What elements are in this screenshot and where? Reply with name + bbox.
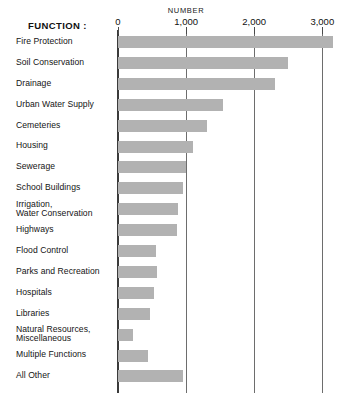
bar <box>118 308 150 320</box>
bar <box>118 182 183 194</box>
category-label-line: Water Conservation <box>16 209 114 218</box>
axis-tickmark <box>254 27 255 34</box>
category-label: Drainage <box>16 79 114 89</box>
bar <box>118 120 207 132</box>
category-label: Irrigation,Water Conservation <box>16 200 114 219</box>
bar <box>118 36 333 48</box>
category-label-line: Sewerage <box>16 162 114 172</box>
category-label-line: Soil Conservation <box>16 58 114 68</box>
category-label-line: Drainage <box>16 79 114 89</box>
category-label: All Other <box>16 371 114 381</box>
axis-tick-label: 3,000 <box>310 16 334 27</box>
axis-tickmark <box>186 27 187 34</box>
category-label: Parks and Recreation <box>16 267 114 277</box>
category-label-line: Multiple Functions <box>16 350 114 360</box>
category-label-line: Highways <box>16 225 114 235</box>
bar <box>118 370 183 382</box>
bar <box>118 161 186 173</box>
axis-tickmark <box>118 27 119 34</box>
category-label-line: Hospitals <box>16 288 114 298</box>
axis-tick-label: 2,000 <box>242 16 266 27</box>
bar <box>118 287 154 299</box>
category-label-line: School Buildings <box>16 183 114 193</box>
axis-tick-label: 0 <box>115 16 120 27</box>
gridline-3000 <box>322 30 323 393</box>
category-label: Flood Control <box>16 246 114 256</box>
category-label-line: Miscellaneous <box>16 334 114 343</box>
category-label-line: Housing <box>16 141 114 151</box>
bar <box>118 350 148 362</box>
category-label-line: Urban Water Supply <box>16 100 114 110</box>
category-label: Multiple Functions <box>16 350 114 360</box>
category-label: Sewerage <box>16 162 114 172</box>
bar <box>118 141 193 153</box>
category-label-line: Cemeteries <box>16 121 114 131</box>
category-label: School Buildings <box>16 183 114 193</box>
category-label: Housing <box>16 141 114 151</box>
category-label-line: Parks and Recreation <box>16 267 114 277</box>
bar <box>118 245 156 257</box>
category-label-line: All Other <box>16 371 114 381</box>
bar <box>118 224 177 236</box>
category-label: Highways <box>16 225 114 235</box>
bar <box>118 78 275 90</box>
bar <box>118 57 288 69</box>
category-label-line: Libraries <box>16 309 114 319</box>
axis-tick-label: 1,000 <box>174 16 198 27</box>
category-label: Hospitals <box>16 288 114 298</box>
bar <box>118 266 157 278</box>
category-label: Fire Protection <box>16 37 114 47</box>
category-label: Libraries <box>16 309 114 319</box>
category-label-line: Fire Protection <box>16 37 114 47</box>
bar <box>118 99 223 111</box>
category-label: Natural Resources,Miscellaneous <box>16 325 114 344</box>
bar <box>118 203 178 215</box>
category-label: Soil Conservation <box>16 58 114 68</box>
bar-chart: FUNCTION : NUMBER 01,0002,0003,000Fire P… <box>0 0 347 409</box>
axis-tickmark <box>322 27 323 34</box>
category-label: Urban Water Supply <box>16 100 114 110</box>
category-label-line: Flood Control <box>16 246 114 256</box>
bar <box>118 329 133 341</box>
category-label: Cemeteries <box>16 121 114 131</box>
